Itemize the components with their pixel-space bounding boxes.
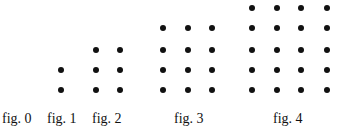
dot bbox=[324, 47, 330, 53]
dot bbox=[274, 5, 280, 11]
dot bbox=[298, 25, 304, 31]
dot bbox=[185, 67, 191, 73]
dot bbox=[324, 25, 330, 31]
dot bbox=[324, 5, 330, 11]
dot bbox=[117, 67, 123, 73]
dot bbox=[58, 67, 64, 73]
dot bbox=[185, 87, 191, 93]
dot bbox=[93, 47, 99, 53]
dot bbox=[324, 67, 330, 73]
dot bbox=[249, 47, 255, 53]
dot bbox=[324, 87, 330, 93]
dot bbox=[58, 87, 64, 93]
dot bbox=[160, 25, 166, 31]
dot bbox=[209, 25, 215, 31]
dot bbox=[298, 5, 304, 11]
panel-label: fig. 3 bbox=[174, 111, 204, 127]
dot bbox=[274, 87, 280, 93]
dot bbox=[117, 87, 123, 93]
dot bbox=[93, 87, 99, 93]
dot bbox=[160, 47, 166, 53]
panel-label: fig. 0 bbox=[2, 111, 32, 127]
panel-label: fig. 1 bbox=[47, 111, 77, 127]
dot bbox=[249, 87, 255, 93]
dot bbox=[298, 67, 304, 73]
dot bbox=[185, 47, 191, 53]
dot bbox=[274, 25, 280, 31]
dot bbox=[249, 25, 255, 31]
dot bbox=[209, 67, 215, 73]
dot bbox=[298, 47, 304, 53]
dot bbox=[249, 5, 255, 11]
dot bbox=[209, 87, 215, 93]
dot bbox=[117, 47, 123, 53]
dot bbox=[274, 67, 280, 73]
dot bbox=[274, 47, 280, 53]
panel-label: fig. 2 bbox=[92, 111, 122, 127]
dot bbox=[209, 47, 215, 53]
dot-pattern-figure: fig. 0 fig. 1 fig. 2 fig. 3 fig. 4 bbox=[0, 0, 342, 134]
dot bbox=[93, 67, 99, 73]
panel-label: fig. 4 bbox=[273, 111, 303, 127]
dot bbox=[160, 67, 166, 73]
dot bbox=[185, 25, 191, 31]
dot bbox=[298, 87, 304, 93]
dot bbox=[160, 87, 166, 93]
dot bbox=[249, 67, 255, 73]
